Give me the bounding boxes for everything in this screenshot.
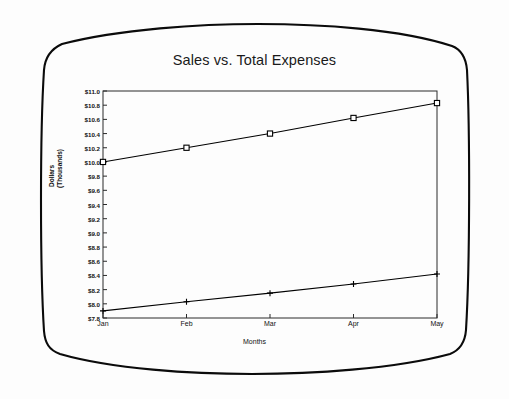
plot-frame: [103, 91, 437, 318]
data-point-marker-square: [434, 100, 439, 105]
x-axis-tick-label: May: [417, 320, 457, 327]
data-point-marker-square: [267, 131, 272, 136]
x-axis-tick-label: Mar: [250, 320, 290, 327]
data-point-marker-square: [351, 115, 356, 120]
x-axis-tick-label: Apr: [334, 320, 374, 327]
series-1: [100, 100, 439, 164]
x-axis-tick-label: Feb: [167, 320, 207, 327]
x-axis-title: Months: [0, 338, 509, 345]
data-point-marker-square: [184, 145, 189, 150]
series-2: [100, 271, 440, 314]
x-axis-ticks: [103, 314, 437, 318]
data-point-marker-plus: [267, 290, 273, 296]
data-point-marker-square: [100, 159, 105, 164]
data-point-marker-plus: [100, 308, 106, 314]
x-axis-tick-label: Jan: [83, 320, 123, 327]
data-point-marker-plus: [184, 299, 190, 305]
series-layer: [100, 100, 440, 313]
data-point-marker-plus: [351, 281, 357, 287]
chart-screenshot: Sales vs. Total Expenses Dollars (Thousa…: [0, 0, 509, 399]
data-point-marker-plus: [434, 271, 440, 277]
y-axis-ticks: [103, 91, 107, 318]
